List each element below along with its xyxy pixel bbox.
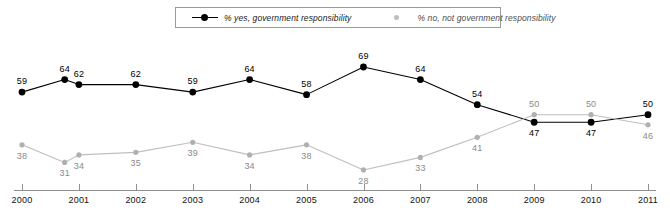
data-point-yes[interactable]: [474, 101, 481, 108]
x-axis-tick-label: 2000: [12, 195, 33, 205]
data-label-no: 35: [131, 158, 141, 168]
line-chart: % yes, government responsibility % no, n…: [0, 0, 670, 220]
x-axis-tick: [364, 184, 365, 191]
x-axis-tick: [136, 184, 137, 191]
legend-label-yes: % yes, government responsibility: [224, 13, 351, 23]
data-label-yes: 59: [187, 76, 197, 86]
data-label-yes: 47: [586, 128, 596, 138]
x-axis-tick-label: 2010: [581, 195, 602, 205]
x-axis-tick-label: 2005: [296, 195, 317, 205]
data-point-no[interactable]: [190, 140, 195, 145]
x-axis-tick: [420, 184, 421, 191]
data-label-no: 38: [301, 151, 311, 161]
x-axis-tick: [307, 184, 308, 191]
data-point-no[interactable]: [247, 152, 252, 157]
data-point-no[interactable]: [19, 142, 24, 147]
data-point-yes[interactable]: [588, 119, 595, 126]
x-axis-tick-label: 2002: [125, 195, 146, 205]
data-label-yes: 64: [59, 64, 69, 74]
data-point-yes[interactable]: [360, 64, 367, 71]
chart-legend: % yes, government responsibility % no, n…: [175, 7, 501, 28]
x-axis-tick: [193, 184, 194, 191]
data-point-no[interactable]: [532, 112, 537, 117]
data-point-yes[interactable]: [417, 76, 424, 83]
data-point-no[interactable]: [588, 112, 593, 117]
data-point-yes[interactable]: [76, 81, 83, 88]
data-label-no: 50: [529, 99, 539, 109]
data-point-yes[interactable]: [246, 76, 253, 83]
data-label-no: 38: [17, 151, 27, 161]
legend-marker-no-icon: [385, 13, 411, 23]
data-point-yes[interactable]: [61, 76, 68, 83]
x-axis-tick-label: 2004: [239, 195, 260, 205]
x-axis-tick-label: 2006: [353, 195, 374, 205]
series-line-no: [22, 115, 648, 170]
data-label-no: 34: [74, 161, 84, 171]
data-label-yes: 59: [17, 76, 27, 86]
data-label-yes: 64: [244, 64, 254, 74]
x-axis-tick-label: 2007: [410, 195, 431, 205]
data-label-no: 46: [643, 131, 653, 141]
x-axis-tick: [477, 184, 478, 191]
data-label-yes: 69: [358, 51, 368, 61]
data-point-no[interactable]: [475, 135, 480, 140]
data-point-yes[interactable]: [132, 81, 139, 88]
data-label-yes: 47: [529, 128, 539, 138]
legend-label-no: % no, not government responsibility: [417, 13, 555, 23]
x-axis-tick-label: 2009: [524, 195, 545, 205]
data-label-yes: 58: [301, 79, 311, 89]
plot-area: [0, 40, 670, 190]
data-label-yes: 62: [131, 69, 141, 79]
data-point-yes[interactable]: [303, 91, 310, 98]
legend-marker-yes-icon: [192, 13, 218, 23]
data-point-yes[interactable]: [189, 89, 196, 96]
series-line-yes: [22, 67, 648, 122]
data-point-yes[interactable]: [531, 119, 538, 126]
x-axis-tick-label: 2011: [638, 195, 658, 205]
data-label-yes: 50: [643, 99, 653, 109]
data-point-no[interactable]: [133, 150, 138, 155]
x-axis-tick-label: 2001: [68, 195, 89, 205]
data-point-no[interactable]: [76, 152, 81, 157]
data-point-yes[interactable]: [645, 111, 652, 118]
data-label-no: 34: [244, 161, 254, 171]
data-point-no[interactable]: [361, 167, 366, 172]
data-label-no: 41: [472, 143, 482, 153]
data-label-no: 39: [187, 148, 197, 158]
data-label-yes: 54: [472, 89, 482, 99]
x-axis-tick: [79, 184, 80, 191]
x-axis-tick: [534, 184, 535, 191]
data-point-no[interactable]: [304, 142, 309, 147]
x-axis-tick: [591, 184, 592, 191]
legend-item-yes[interactable]: % yes, government responsibility: [192, 8, 351, 27]
data-label-no: 50: [586, 99, 596, 109]
data-label-no: 31: [59, 168, 69, 178]
data-label-no: 33: [415, 163, 425, 173]
x-axis: 2000200120022003200420052006200720082009…: [0, 182, 670, 220]
x-axis-tick: [250, 184, 251, 191]
x-axis-tick-label: 2003: [182, 195, 203, 205]
legend-item-no[interactable]: % no, not government responsibility: [385, 8, 555, 27]
data-point-no[interactable]: [645, 122, 650, 127]
x-axis-tick: [648, 184, 649, 191]
x-axis-tick: [22, 184, 23, 191]
data-point-no[interactable]: [62, 160, 67, 165]
series-lines: [0, 40, 670, 190]
x-axis-line: [14, 190, 656, 191]
data-label-yes: 62: [74, 69, 84, 79]
data-point-no[interactable]: [418, 155, 423, 160]
data-point-yes[interactable]: [19, 89, 26, 96]
data-label-yes: 64: [415, 64, 425, 74]
x-axis-tick-label: 2008: [467, 195, 488, 205]
